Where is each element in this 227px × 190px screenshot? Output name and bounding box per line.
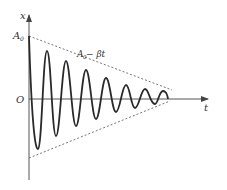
damped-oscillation-diagram: x t O A 0 A 0 − βt bbox=[0, 0, 227, 190]
origin-label: O bbox=[16, 94, 24, 105]
svg-text:A: A bbox=[12, 30, 20, 41]
y-axis-label: x bbox=[20, 10, 26, 21]
svg-text:− βt: − βt bbox=[86, 49, 106, 59]
envelope-label: A 0 − βt bbox=[76, 49, 106, 60]
x-axis-label: t bbox=[204, 102, 209, 113]
svg-text:0: 0 bbox=[20, 35, 24, 42]
amplitude-label: A 0 bbox=[12, 30, 24, 42]
